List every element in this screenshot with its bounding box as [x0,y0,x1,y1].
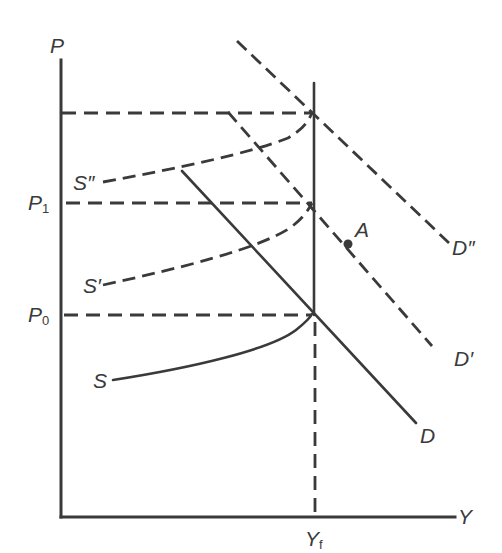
p0-label: P0 [28,303,49,328]
demand-label-d: D [420,424,435,447]
supply-demand-diagram: P Y P1 P0 Yf S S′ S″ D D′ D″ A [0,0,502,553]
full-employment-line [314,83,315,515]
demand-curves [182,41,449,423]
supply-curve-s-prime [103,203,312,285]
output-axis-label: Y [458,505,474,528]
supply-curves [103,113,312,380]
supply-label-s: S [93,369,107,392]
p1-label: P1 [28,191,49,216]
supply-label-s-prime: S′ [83,274,102,297]
axes [61,60,455,517]
supply-label-s-double-prime: S″ [73,171,96,194]
demand-curve-d-prime [228,112,432,346]
point-a-marker [344,240,353,249]
demand-curve-d [182,171,416,423]
supply-curve-s-double-prime [103,113,312,182]
supply-curve-s [113,314,312,380]
demand-label-d-prime: D′ [454,347,474,370]
demand-label-d-double-prime: D″ [452,236,476,259]
point-a-label: A [353,218,369,241]
demand-curve-d-double-prime [237,41,449,243]
price-axis-label: P [50,34,64,57]
yf-label: Yf [305,527,323,552]
